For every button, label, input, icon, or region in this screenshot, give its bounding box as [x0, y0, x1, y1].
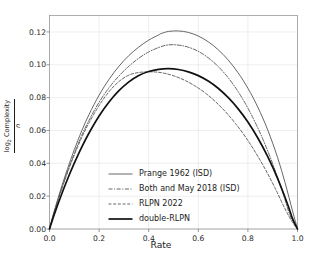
legend-line-sample-1: [108, 184, 133, 194]
legend-item-2[interactable]: RLPN 2022: [108, 196, 278, 211]
y-tick-label-0: 0.00: [16, 225, 46, 234]
legend: Prange 1962 (ISD)Both and May 2018 (ISD)…: [108, 166, 278, 226]
y-tick-label-1: 0.02: [16, 192, 46, 201]
y-axis-title: log2 Complexity n: [6, 78, 20, 174]
legend-line-sample-0: [108, 169, 133, 179]
x-axis-title: Rate: [0, 239, 322, 250]
legend-item-0[interactable]: Prange 1962 (ISD): [108, 166, 278, 181]
y-tick-label-2: 0.04: [16, 159, 46, 168]
y-tick-label-5: 0.10: [16, 60, 46, 69]
y-tick-label-6: 0.12: [16, 28, 46, 37]
legend-line-sample-2: [108, 199, 133, 209]
legend-item-3[interactable]: double-RLPN: [108, 211, 278, 226]
legend-line-sample-3: [108, 214, 133, 224]
figure: 0.000.020.040.060.080.100.12 0.00.20.40.…: [0, 0, 322, 258]
legend-item-1[interactable]: Both and May 2018 (ISD): [108, 181, 278, 196]
y-axis-title-denominator: n: [15, 123, 22, 129]
legend-label-2: RLPN 2022: [139, 199, 183, 208]
legend-label-3: double-RLPN: [139, 214, 190, 223]
legend-label-0: Prange 1962 (ISD): [139, 169, 212, 178]
y-axis-title-numerator: log2 Complexity: [4, 99, 14, 153]
legend-label-1: Both and May 2018 (ISD): [139, 184, 240, 193]
